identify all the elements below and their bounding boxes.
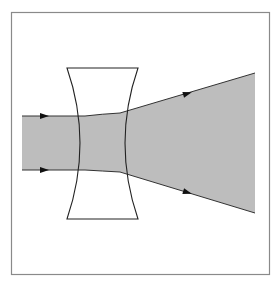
light-beam: [22, 73, 255, 213]
diverging-lens-diagram: [0, 0, 276, 283]
